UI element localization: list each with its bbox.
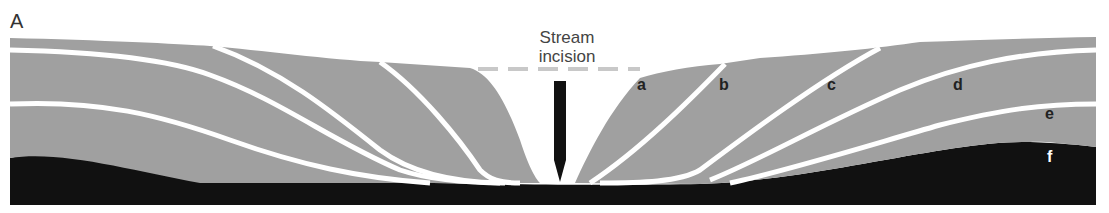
unit-label-a: a [637, 76, 646, 94]
panel-label: A [10, 10, 23, 33]
unit-label-f: f [1047, 148, 1052, 166]
incision-arrow [554, 81, 566, 182]
caption-line2: incision [522, 47, 612, 66]
unit-label-b: b [719, 76, 729, 94]
unit-label-e: e [1045, 105, 1054, 123]
unit-label-d: d [953, 76, 963, 94]
caption-line1: Stream [522, 28, 612, 47]
left-strata [10, 38, 540, 183]
stream-incision-caption: Stream incision [522, 28, 612, 66]
unit-label-c: c [827, 76, 836, 94]
